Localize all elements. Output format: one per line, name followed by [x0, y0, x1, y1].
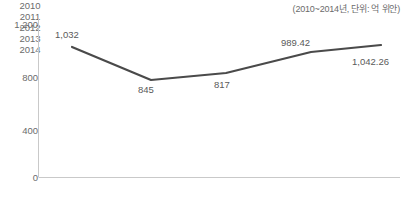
- data-label-2013: 989.42: [281, 37, 310, 48]
- data-label-2010: 1,032: [55, 29, 79, 40]
- data-label-2011: 845: [138, 84, 154, 95]
- data-label-2014: 1,042.26: [352, 56, 389, 67]
- data-label-2012: 817: [214, 79, 230, 90]
- data-series-line: [72, 45, 381, 80]
- line-chart: (2010~2014년, 단위: 억 위안) 1,200 800 400 0 1…: [0, 0, 406, 206]
